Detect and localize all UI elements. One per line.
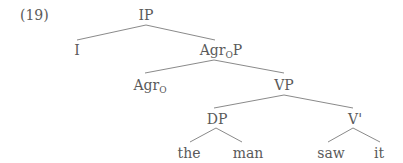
leaf-it: it (374, 145, 384, 161)
edge-vp-vbar (284, 95, 353, 108)
node-agro-subscript: O (159, 85, 166, 95)
edge-vp-dp (214, 95, 284, 108)
node-agrop-suffix: P (233, 42, 242, 58)
node-i: I (74, 42, 80, 58)
node-agrop-base: Agr (200, 42, 226, 58)
node-vp: VP (274, 77, 294, 93)
edge-agrop-agro (145, 60, 214, 73)
edge-vbar-it (353, 128, 380, 142)
edge-vbar-saw (328, 128, 353, 142)
edge-dp-the (190, 128, 216, 142)
edge-agrop-vp (214, 60, 284, 73)
edge-ip-agrop (146, 25, 215, 40)
leaf-man: man (233, 145, 264, 161)
example-number: (19) (20, 7, 49, 23)
node-vbar: V' (348, 111, 362, 127)
leaf-saw: saw (317, 145, 345, 161)
tree-edges (0, 0, 403, 163)
node-agro-base: Agr (133, 77, 159, 93)
edge-dp-man (216, 128, 242, 142)
node-ip: IP (139, 7, 154, 23)
leaf-the: the (178, 145, 201, 161)
node-agrop: AgrOP (200, 42, 243, 58)
node-dp: DP (207, 111, 228, 127)
node-agro: AgrO (133, 77, 166, 93)
edge-ip-i (77, 25, 146, 40)
